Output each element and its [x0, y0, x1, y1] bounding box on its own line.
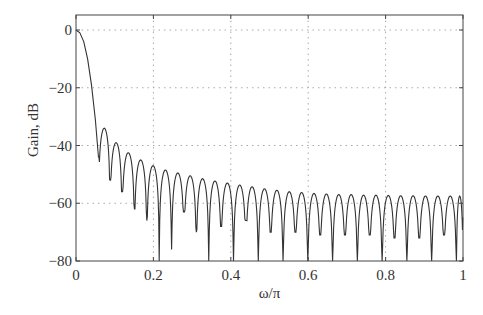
- y-tick-label: −80: [49, 253, 72, 269]
- x-axis-label: ω/π: [259, 285, 281, 301]
- y-axis-label: Gain, dB: [25, 103, 41, 157]
- x-tick-label: 0: [72, 267, 80, 283]
- x-tick-label: 0.2: [144, 267, 163, 283]
- y-tick-label: −40: [49, 138, 72, 154]
- gain-response-chart: 00.20.40.60.81 0−20−40−60−80 ω/π Gain, d…: [0, 0, 483, 315]
- y-tick-label: −20: [49, 80, 72, 96]
- x-tick-label: 1: [459, 267, 467, 283]
- x-tick-label: 0.6: [299, 267, 318, 283]
- x-tick-label: 0.4: [221, 267, 240, 283]
- y-tick-label: −60: [49, 195, 72, 211]
- y-tick-label: 0: [65, 22, 73, 38]
- x-tick-labels: 00.20.40.60.81: [72, 267, 467, 283]
- y-tick-labels: 0−20−40−60−80: [49, 22, 72, 269]
- x-tick-label: 0.8: [376, 267, 395, 283]
